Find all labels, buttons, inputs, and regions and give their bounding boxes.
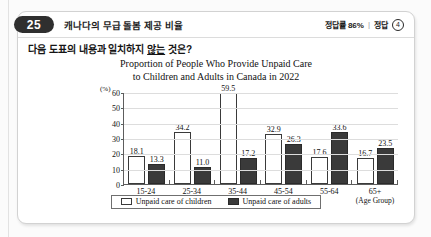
legend-item-adults: Unpaid care of adults	[228, 197, 312, 206]
bar-45-54-children: 32.9	[265, 134, 282, 184]
question-card: 25 캐나다의 무급 돌봄 제공 비율 정답률 86% | 정답 4 다음 도표…	[17, 11, 415, 224]
gridline-10	[124, 170, 398, 171]
answer-choice-badge: 4	[392, 19, 404, 31]
bar-value-label: 32.9	[267, 125, 281, 134]
gridline-20	[124, 154, 398, 155]
bar-value-label: 13.3	[150, 155, 164, 164]
bar-value-label: 23.5	[378, 139, 392, 148]
bar-value-label: 17.6	[313, 148, 327, 157]
chart-title: Proportion of People Who Provide Unpaid …	[28, 57, 404, 83]
legend-box: Unpaid care of childrenUnpaid care of ad…	[111, 195, 321, 209]
chart-title-line1: Proportion of People Who Provide Unpaid …	[28, 58, 404, 71]
question-suffix: 것은?	[165, 44, 192, 55]
legend-swatch	[228, 198, 239, 205]
y-tickmark-20	[121, 154, 124, 155]
y-tick-20: 20	[100, 150, 120, 159]
gridline-40	[124, 124, 398, 125]
bar-65+-children: 16.7	[357, 158, 374, 184]
question-number-badge: 25	[14, 16, 54, 33]
bar-35-44-adults: 17.2	[240, 158, 257, 184]
bar-value-label: 11.0	[196, 158, 210, 167]
question-meta: 정답률 86% | 정답 4	[325, 19, 404, 31]
y-tickmark-30	[121, 139, 124, 140]
bar-value-label: 33.6	[333, 123, 347, 132]
meta-separator: |	[368, 20, 370, 29]
y-tick-60: 60	[100, 89, 120, 98]
y-tickmark-50	[121, 108, 124, 109]
question-prompt: 다음 도표의 내용과 일치하지 않는 것은?	[28, 41, 192, 56]
chart-title-line2: to Children and Adults in Canada in 2022	[28, 71, 404, 84]
header-divider	[18, 37, 414, 38]
plot-wrapper: (%) 0102030405060 18.113.334.211.059.517…	[28, 87, 404, 191]
bar-value-label: 59.5	[221, 84, 235, 93]
y-tick-30: 30	[100, 135, 120, 144]
question-underlined: 않는	[147, 44, 165, 55]
y-tickmark-40	[121, 124, 124, 125]
answer-label: 정답	[374, 19, 388, 30]
y-tick-50: 50	[100, 104, 120, 113]
plot-area: 18.113.334.211.059.517.232.926.317.633.6…	[123, 93, 398, 185]
y-tick-10: 10	[100, 165, 120, 174]
gridline-60	[124, 93, 398, 94]
accuracy-rate: 정답률 86%	[325, 19, 364, 30]
legend-label: Unpaid care of adults	[243, 197, 312, 206]
legend-label: Unpaid care of children	[136, 197, 212, 206]
legend-swatch	[121, 198, 132, 205]
y-tick-0: 0	[100, 181, 120, 190]
gridline-30	[124, 139, 398, 140]
y-tick-40: 40	[100, 119, 120, 128]
y-tickmark-60	[121, 93, 124, 94]
gridline-50	[124, 108, 398, 109]
bar-55-64-adults: 33.6	[331, 132, 348, 184]
chart-figure: Proportion of People Who Provide Unpaid …	[28, 57, 404, 215]
question-prefix: 다음 도표의 내용과 일치하지	[28, 44, 147, 55]
chart-legend: Unpaid care of childrenUnpaid care of ad…	[28, 195, 404, 209]
legend-item-children: Unpaid care of children	[121, 197, 212, 206]
bar-value-label: 17.2	[241, 149, 255, 158]
screenshot-root: 25 캐나다의 무급 돌봄 제공 비율 정답률 86% | 정답 4 다음 도표…	[0, 0, 431, 237]
bar-15-24-adults: 13.3	[148, 164, 165, 184]
y-tickmark-0	[121, 185, 124, 186]
question-topic-title: 캐나다의 무급 돌봄 제공 비율	[64, 18, 183, 32]
page-margin-rule	[8, 0, 9, 237]
bar-45-54-adults: 26.3	[285, 144, 302, 184]
y-axis-tick-labels: 0102030405060	[100, 93, 120, 185]
card-header: 25 캐나다의 무급 돌봄 제공 비율 정답률 86% | 정답 4	[18, 12, 414, 37]
y-tickmark-10	[121, 170, 124, 171]
